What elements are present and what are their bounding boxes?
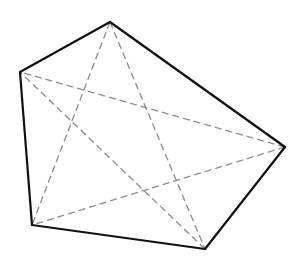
pentagon-diagram [0,0,303,260]
edge-BC [205,147,285,249]
edge-CD [32,225,205,249]
diagonal-AD [32,22,110,225]
dashed-diagonals [20,22,285,249]
diagonal-BD [32,147,285,225]
edge-DE [20,72,32,225]
pentagon-edges [20,22,285,249]
edge-EA [20,22,110,72]
